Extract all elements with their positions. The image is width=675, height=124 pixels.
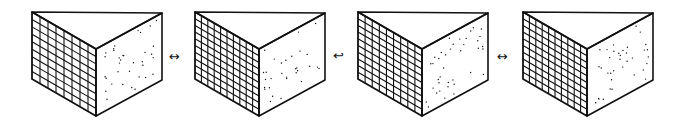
prism-3 <box>358 12 488 116</box>
prism-2 <box>195 12 325 116</box>
prism-sequence-diagram: ↔ ↩ ↔ <box>0 0 675 124</box>
prism-4 <box>523 12 653 116</box>
hook-arrow-icon: ↩ <box>333 49 344 62</box>
prism-1 <box>32 12 162 116</box>
double-arrow-icon: ↔ <box>497 50 508 63</box>
double-arrow-icon: ↔ <box>169 50 180 63</box>
